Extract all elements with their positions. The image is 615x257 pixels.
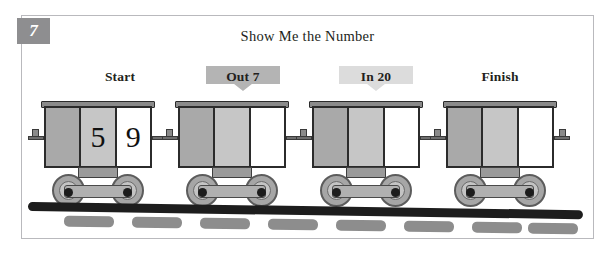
label-start: Start (75, 69, 165, 85)
answer-panel[interactable] (483, 108, 518, 166)
car-body (446, 106, 554, 168)
car-body (178, 106, 286, 168)
track-tie (528, 223, 578, 235)
track-tie (64, 216, 114, 228)
car-body: 5 9 (44, 106, 152, 168)
car-pedestal (78, 167, 118, 178)
coupler-left-icon (430, 136, 446, 140)
answer-panel[interactable] (251, 108, 284, 166)
railroad-track (28, 196, 586, 238)
worksheet-page: 7 Show Me the Number Start Out 7 In 20 F… (0, 0, 615, 257)
car-pedestal (346, 167, 386, 178)
answer-panel[interactable]: 9 (117, 108, 150, 166)
coupler-left-icon (296, 136, 312, 140)
label-finish: Finish (445, 69, 555, 85)
answer-panel[interactable] (46, 108, 81, 166)
railcar-out7[interactable] (170, 96, 294, 211)
answer-panel[interactable] (180, 108, 215, 166)
answer-panel[interactable] (349, 108, 384, 166)
coupler-right-icon (554, 136, 570, 140)
car-pedestal (480, 167, 520, 178)
track-tie (404, 221, 454, 233)
answer-panel[interactable] (314, 108, 349, 166)
answer-panel[interactable] (448, 108, 483, 166)
railcar-finish[interactable] (438, 96, 562, 211)
car-pedestal (212, 167, 252, 178)
answer-panel[interactable] (519, 108, 552, 166)
car-body (312, 106, 420, 168)
coupler-left-icon (28, 136, 44, 140)
answer-panel[interactable]: 5 (81, 108, 116, 166)
coupler-left-icon (162, 136, 178, 140)
railcar-start[interactable]: 5 9 (36, 96, 160, 211)
track-tie (200, 218, 250, 230)
track-tie (132, 217, 182, 229)
answer-panel[interactable] (385, 108, 418, 166)
track-tie (268, 219, 318, 231)
page-title: Show Me the Number (0, 28, 615, 45)
track-tie (336, 220, 386, 232)
track-tie (472, 222, 522, 234)
railcar-in20[interactable] (304, 96, 428, 211)
answer-panel[interactable] (215, 108, 250, 166)
